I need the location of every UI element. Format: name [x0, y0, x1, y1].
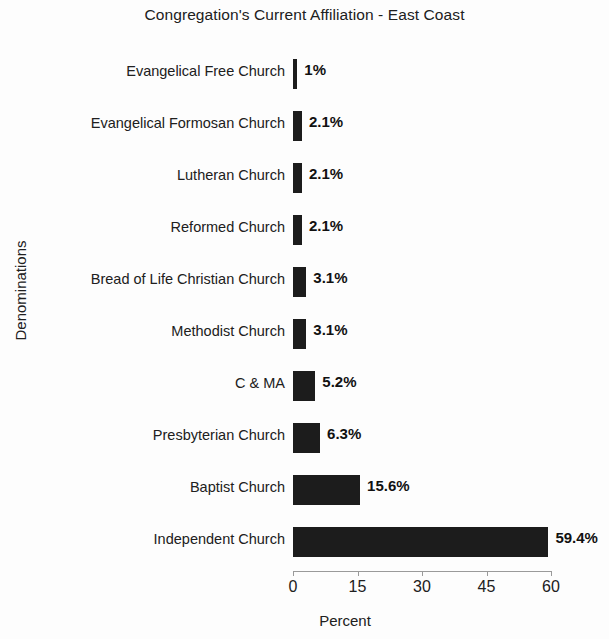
x-axis-tick: [487, 571, 488, 576]
bar: [293, 111, 302, 141]
bar-row: Baptist Church15.6%: [293, 464, 551, 516]
x-axis-tick: [358, 571, 359, 576]
x-axis-tick-label: 0: [273, 578, 313, 596]
bar-row: Reformed Church2.1%: [293, 204, 551, 256]
x-axis-tick-label: 30: [402, 578, 442, 596]
bar-value-label: 3.1%: [313, 269, 347, 286]
category-label: Bread of Life Christian Church: [91, 271, 285, 287]
bar: [293, 475, 360, 505]
bar: [293, 527, 548, 557]
category-label: Evangelical Formosan Church: [91, 115, 285, 131]
x-axis-tick-label: 45: [467, 578, 507, 596]
category-label: Evangelical Free Church: [126, 63, 285, 79]
bar-value-label: 2.1%: [309, 165, 343, 182]
bar-row: Methodist Church3.1%: [293, 308, 551, 360]
bar-value-label: 15.6%: [367, 477, 410, 494]
bar: [293, 423, 320, 453]
category-label: Independent Church: [154, 531, 285, 547]
bar-row: Independent Church59.4%: [293, 516, 551, 568]
page-title: Congregation's Current Affiliation - Eas…: [0, 6, 609, 24]
bar-row: Bread of Life Christian Church3.1%: [293, 256, 551, 308]
x-axis-tick: [293, 571, 294, 576]
bar-row: Evangelical Free Church1%: [293, 48, 551, 100]
bar-value-label: 1%: [304, 61, 326, 78]
bar-value-label: 2.1%: [309, 113, 343, 130]
bar-value-label: 2.1%: [309, 217, 343, 234]
x-axis-tick: [422, 571, 423, 576]
bar-value-label: 6.3%: [327, 425, 361, 442]
bar: [293, 319, 306, 349]
bar: [293, 163, 302, 193]
category-label: Presbyterian Church: [153, 427, 285, 443]
category-label: Baptist Church: [190, 479, 285, 495]
plot-area: Evangelical Free Church1%Evangelical For…: [293, 48, 551, 571]
category-label: C & MA: [235, 375, 285, 391]
bar: [293, 215, 302, 245]
x-axis-tick-label: 60: [531, 578, 571, 596]
x-axis-tick-label: 15: [338, 578, 378, 596]
category-label: Methodist Church: [171, 323, 285, 339]
x-axis-tick: [551, 571, 552, 576]
bar-value-label: 5.2%: [322, 373, 356, 390]
bar-row: Presbyterian Church6.3%: [293, 412, 551, 464]
bar-row: Lutheran Church2.1%: [293, 152, 551, 204]
y-axis-title: Denominations: [12, 211, 29, 371]
category-label: Lutheran Church: [177, 167, 285, 183]
bar-value-label: 3.1%: [313, 321, 347, 338]
bar-value-label: 59.4%: [555, 529, 598, 546]
bar-row: C & MA5.2%: [293, 360, 551, 412]
category-label: Reformed Church: [171, 219, 285, 235]
x-axis-title: Percent: [285, 612, 405, 629]
bar-row: Evangelical Formosan Church2.1%: [293, 100, 551, 152]
bar: [293, 59, 297, 89]
bar: [293, 267, 306, 297]
chart-page: Congregation's Current Affiliation - Eas…: [0, 0, 609, 639]
bar: [293, 371, 315, 401]
